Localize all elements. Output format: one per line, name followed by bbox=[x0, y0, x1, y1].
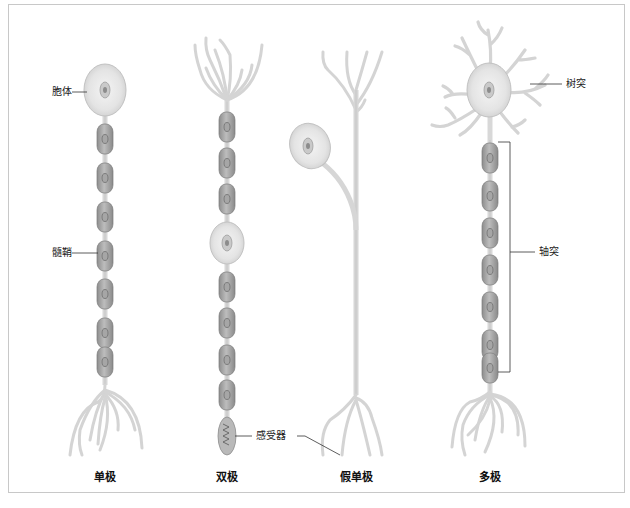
axon-terminals bbox=[452, 392, 525, 455]
peripheral-branches bbox=[323, 52, 382, 112]
caption-bipolar: 双极 bbox=[216, 471, 238, 484]
dendrites bbox=[195, 38, 262, 100]
label-dendrite: 树突 bbox=[566, 78, 586, 90]
central-branches bbox=[322, 395, 382, 455]
axon-terminals bbox=[70, 385, 142, 455]
label-axon: 轴突 bbox=[539, 246, 559, 258]
neuron-pseudounipolar bbox=[283, 52, 382, 455]
caption-pseudounipolar: 假单极 bbox=[340, 471, 373, 484]
neuron-multipolar bbox=[432, 22, 548, 455]
label-receptor: 感受器 bbox=[256, 430, 286, 442]
label-myelin-sheath: 髓鞘 bbox=[52, 247, 72, 259]
label-cell-body: 胞体 bbox=[52, 86, 72, 98]
neuron-unipolar bbox=[70, 64, 142, 455]
neuron-diagram bbox=[0, 0, 630, 508]
caption-multipolar: 多极 bbox=[479, 471, 501, 484]
receptor bbox=[218, 417, 236, 455]
neuron-bipolar bbox=[195, 38, 262, 455]
caption-unipolar: 单极 bbox=[94, 471, 116, 484]
